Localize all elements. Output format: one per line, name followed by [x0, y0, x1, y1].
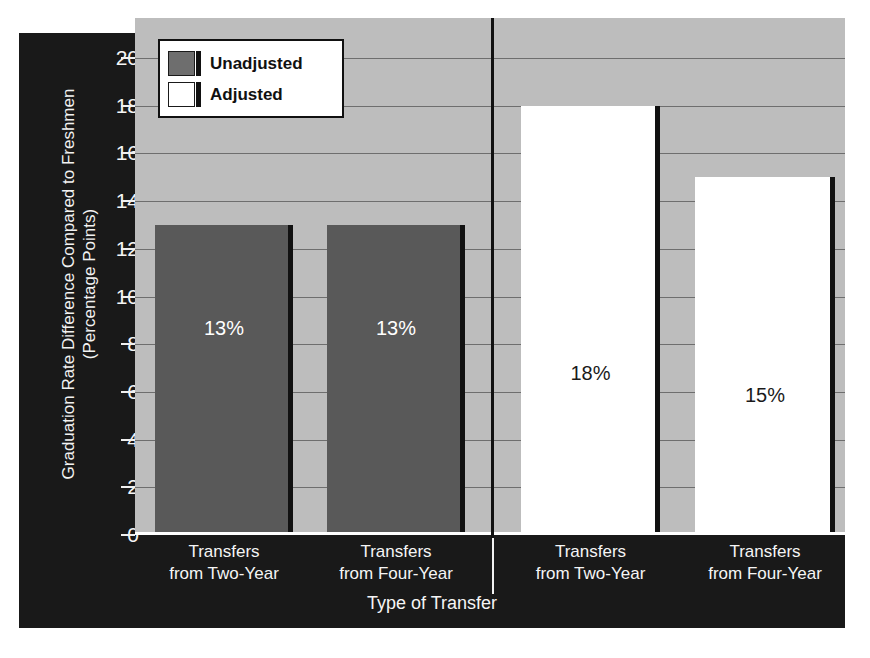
legend-label-unadjusted: Unadjusted	[210, 54, 303, 74]
bar-data-label: 13%	[327, 318, 465, 338]
chart-legend: Unadjusted Adjusted	[158, 39, 344, 118]
chart-figure: Graduation Rate Difference Compared to F…	[0, 0, 870, 658]
x-axis-category-label-line-2: from Two-Year	[501, 563, 680, 585]
bar-unadjusted-two-year	[155, 225, 293, 535]
bar-data-label: 15%	[695, 385, 835, 405]
y-axis-tick-mark	[121, 296, 135, 298]
x-axis-category-label: Transfersfrom Two-Year	[501, 541, 680, 585]
x-axis-category-label: Transfersfrom Four-Year	[307, 541, 485, 585]
x-axis-category-label-line-1: Transfers	[675, 541, 855, 563]
bar-adjusted-two-year	[521, 106, 660, 535]
bar-edge	[288, 225, 293, 535]
legend-label-adjusted: Adjusted	[210, 85, 283, 105]
x-axis-title: Type of Transfer	[19, 592, 845, 614]
bar-data-label: 18%	[521, 363, 660, 383]
x-axis-category-label-line-1: Transfers	[135, 541, 313, 563]
legend-item-adjusted: Adjusted	[168, 79, 334, 110]
legend-item-unadjusted: Unadjusted	[168, 48, 334, 79]
x-axis-category-label-line-2: from Four-Year	[307, 563, 485, 585]
x-axis-category-label-line-2: from Two-Year	[135, 563, 313, 585]
y-axis-tick-mark	[121, 391, 135, 393]
gridline	[135, 153, 845, 154]
bar-unadjusted-four-year	[327, 225, 465, 535]
legend-swatch-unadjusted-icon	[168, 51, 201, 76]
y-axis-tick-mark	[121, 57, 135, 59]
bar-face	[327, 225, 460, 535]
y-axis-tick-mark	[121, 200, 135, 202]
x-axis-category-label-line-1: Transfers	[307, 541, 485, 563]
y-axis-tick-mark	[121, 248, 135, 250]
x-axis-category-label-line-1: Transfers	[501, 541, 680, 563]
bar-data-label: 13%	[155, 318, 293, 338]
y-axis-tick-mark	[121, 486, 135, 488]
x-axis-category-label: Transfersfrom Four-Year	[675, 541, 855, 585]
y-axis-tick-mark	[121, 343, 135, 345]
bar-adjusted-four-year	[695, 177, 835, 535]
bar-face	[695, 177, 830, 535]
x-axis-category-label: Transfersfrom Two-Year	[135, 541, 313, 585]
bar-edge	[460, 225, 465, 535]
x-axis-baseline	[135, 532, 845, 535]
group-divider-line	[491, 18, 494, 538]
y-axis-tick-mark	[121, 152, 135, 154]
legend-swatch-adjusted-icon	[168, 82, 201, 107]
bar-face	[521, 106, 655, 535]
group-divider-line-lower	[492, 538, 494, 594]
y-axis-tick-mark	[121, 439, 135, 441]
y-axis-tick-mark	[121, 534, 135, 536]
bar-edge	[655, 106, 660, 535]
x-axis-category-label-line-2: from Four-Year	[675, 563, 855, 585]
bar-edge	[830, 177, 835, 535]
bar-face	[155, 225, 288, 535]
y-axis-tick-mark	[121, 105, 135, 107]
